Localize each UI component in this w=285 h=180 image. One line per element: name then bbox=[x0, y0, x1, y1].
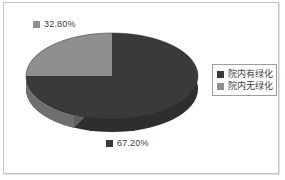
data-label-swatch-light-icon bbox=[33, 21, 40, 28]
data-label-swatch-dark-icon bbox=[106, 140, 113, 147]
data-label-dark-slice: 67.20% bbox=[106, 138, 149, 148]
chart-screenshot: 32.80% 67.20% 院内有绿化 院内无绿化 bbox=[0, 0, 285, 180]
legend-item-dark[interactable]: 院内有绿化 bbox=[217, 68, 273, 80]
legend-swatch-dark-icon bbox=[217, 71, 224, 78]
legend-label-light: 院内无绿化 bbox=[228, 81, 273, 92]
legend-swatch-light-icon bbox=[217, 83, 224, 90]
data-label-light-slice: 32.80% bbox=[33, 19, 76, 29]
legend-item-light[interactable]: 院内无绿化 bbox=[217, 80, 273, 92]
legend-label-dark: 院内有绿化 bbox=[228, 69, 273, 80]
chart-legend: 院内有绿化 院内无绿化 bbox=[212, 64, 277, 96]
data-label-dark-text: 67.20% bbox=[117, 138, 149, 148]
data-label-light-text: 32.80% bbox=[44, 19, 76, 29]
pie-slice-light-33[interactable] bbox=[26, 33, 112, 76]
